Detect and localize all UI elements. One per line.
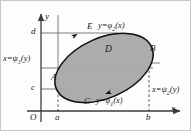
origin-label: O bbox=[30, 113, 37, 122]
region-label-D: D bbox=[105, 45, 112, 55]
point-label-A: A bbox=[51, 73, 57, 82]
y-tick-label-c: c bbox=[31, 83, 35, 92]
curve-label-top-arg: (x) bbox=[115, 20, 124, 30]
curve-label-left-arg: (y) bbox=[21, 53, 30, 63]
x-tick-label-b: b bbox=[146, 113, 151, 122]
curve-label-right-arg: (y) bbox=[170, 84, 179, 94]
y-tick-label-d: d bbox=[31, 27, 36, 36]
curve-label-bottom: y=φ1(x) bbox=[96, 96, 123, 107]
point-label-E: E bbox=[87, 22, 93, 31]
curve-label-right-prefix: x= bbox=[152, 84, 162, 94]
curve-label-top-prefix: y= bbox=[98, 20, 108, 30]
point-label-B: B bbox=[150, 44, 156, 53]
figure-container: y x O d c a b E B A C D y=φ2(x) y=φ1(x) … bbox=[0, 0, 191, 131]
curve-label-top: y=φ2(x) bbox=[98, 21, 125, 32]
point-label-C: C bbox=[84, 97, 90, 106]
curve-label-bottom-arg: (x) bbox=[113, 95, 122, 105]
curve-label-left-prefix: x= bbox=[3, 53, 13, 63]
curve-label-left: x=ψ1(y) bbox=[3, 54, 30, 65]
x-axis-label: x bbox=[171, 104, 175, 113]
y-axis-label: y bbox=[45, 12, 49, 21]
curve-label-bottom-prefix: y= bbox=[96, 95, 106, 105]
x-tick-label-a: a bbox=[55, 113, 60, 122]
curve-label-right: x=ψ2(y) bbox=[152, 85, 179, 96]
